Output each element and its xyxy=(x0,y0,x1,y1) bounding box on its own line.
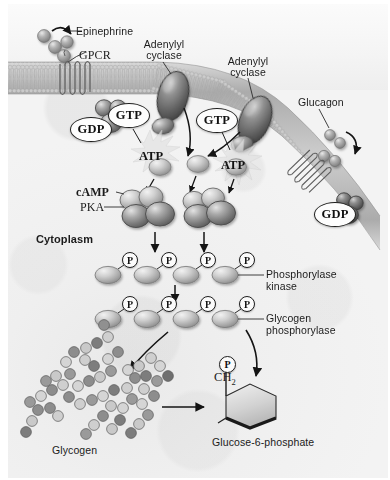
phosphate-pk-3: P xyxy=(200,252,216,268)
glucagon-binding-arrow xyxy=(346,132,356,154)
gtp-atp-connector-left xyxy=(133,129,141,143)
glycogen-phosphorylase-row xyxy=(95,309,264,328)
label-glucose-6-phosphate: Glucose-6-phosphate xyxy=(212,436,314,448)
phosphate-gp-1: P xyxy=(122,296,138,312)
ch2-text: CH xyxy=(214,370,232,384)
label-glycogen-phosphorylase-line1: Glycogen xyxy=(266,312,311,324)
gtp-badge-left: GTP xyxy=(108,103,150,128)
label-atp-right: ATP xyxy=(221,158,245,173)
camp-to-pka-arrow-2 xyxy=(190,176,196,192)
label-adenylyl-cyclase-right-line2: cyclase xyxy=(220,66,276,78)
label-cytoplasm: Cytoplasm xyxy=(36,233,93,245)
figure-canvas: Epinephrine GPCR Adenylyl cyclase Adenyl… xyxy=(0,0,390,480)
phosphate-pk-2: P xyxy=(161,252,177,268)
label-phosphorylase-kinase-line2: kinase xyxy=(266,280,297,292)
label-phosphorylase-kinase-line1: Phosphorylase xyxy=(266,268,337,280)
cyclase-left-product-arrow xyxy=(184,108,190,156)
label-adenylyl-cyclase-left-line2: cyclase xyxy=(136,49,192,61)
phosphate-gp-4: P xyxy=(239,296,255,312)
phosphorylase-kinase-row xyxy=(95,265,264,284)
epinephrine-molecule xyxy=(38,30,74,63)
pka-complex-right xyxy=(183,188,236,228)
phosphate-pk-1: P xyxy=(122,252,138,268)
glucagon-leader xyxy=(319,109,329,128)
label-atp-left: ATP xyxy=(139,149,163,164)
label-glucagon: Glucagon xyxy=(298,96,344,108)
ch2-subscript: 2 xyxy=(232,377,236,387)
cell-illustration: Epinephrine GPCR Adenylyl cyclase Adenyl… xyxy=(8,4,388,478)
gtp-badge-right: GTP xyxy=(196,108,238,133)
cascade-descending-arrow xyxy=(246,330,257,376)
gdp-badge-left: GDP xyxy=(70,117,112,142)
label-pka: PKA xyxy=(80,201,104,213)
camp-to-pka-arrow-3 xyxy=(229,179,234,193)
label-epinephrine: Epinephrine xyxy=(76,25,133,37)
gdp-badge-right: GDP xyxy=(314,202,356,227)
label-camp: cAMP xyxy=(76,186,109,198)
label-glycogen: Glycogen xyxy=(52,444,97,456)
phosphate-gp-3: P xyxy=(200,296,216,312)
pka-complex-left xyxy=(120,187,175,228)
phosphate-pk-4: P xyxy=(239,252,255,268)
phosphate-gp-2: P xyxy=(161,296,177,312)
label-gpcr: GPCR xyxy=(79,49,111,61)
label-glycogen-phosphorylase-line2: phosphorylase xyxy=(266,324,336,336)
glycogen-polymer xyxy=(21,320,174,440)
epinephrine-binding-arrow xyxy=(52,28,71,34)
label-ch2: CH2 xyxy=(214,371,236,388)
